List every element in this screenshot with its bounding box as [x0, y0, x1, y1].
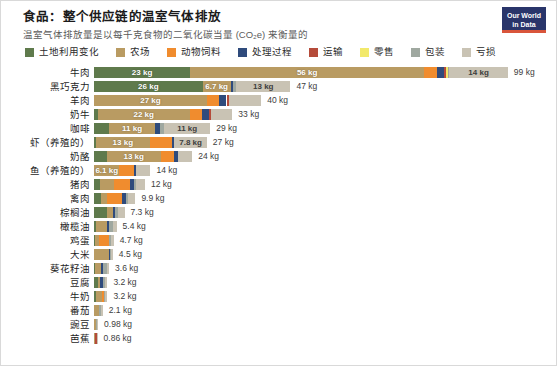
bar-row[interactable]: 豆腐3.2 kg [1, 275, 556, 289]
legend-swatch-icon [462, 48, 471, 57]
bar-segment[interactable] [97, 319, 98, 330]
bar-segment[interactable] [111, 235, 114, 246]
bar-row-label: 猪肉 [1, 179, 94, 190]
bar-row[interactable]: 奶酪13 kg24 kg [1, 149, 556, 163]
bar-segment[interactable] [107, 193, 122, 204]
bar-segment[interactable] [101, 193, 108, 204]
bar-segment[interactable] [437, 67, 445, 78]
bar-segment[interactable] [190, 109, 203, 120]
bar-segment[interactable] [94, 249, 109, 260]
bar-row[interactable]: 禽肉9.9 kg [1, 191, 556, 205]
bar-row[interactable]: 奶牛22 kg33 kg [1, 107, 556, 121]
bar-row[interactable]: 番茄2.1 kg [1, 303, 556, 317]
bar-row[interactable]: 鱼（养殖的）6.1 kg14 kg [1, 163, 556, 177]
bar-row[interactable]: 橄榄油5.4 kg [1, 219, 556, 233]
bar-total-value: 33 kg [238, 109, 259, 120]
bar-segment[interactable] [94, 207, 107, 218]
bar-segment[interactable] [98, 109, 190, 120]
bar-segment[interactable] [207, 95, 220, 106]
bar-segment[interactable] [161, 151, 174, 162]
bar-segment[interactable] [114, 179, 130, 190]
bar-row[interactable]: 芭蕉0.86 kg [1, 331, 556, 345]
bar-segment[interactable] [105, 277, 107, 288]
bar-total-value: 12 kg [151, 179, 172, 190]
bar-segment[interactable] [94, 193, 101, 204]
bar-segment[interactable] [236, 81, 290, 92]
bar-row-label: 鱼（养殖的） [1, 165, 94, 176]
bar-row-label: 芭蕉 [1, 333, 94, 344]
legend-item[interactable]: 零售 [360, 47, 394, 57]
bar-row-label: 牛奶 [1, 291, 94, 302]
bar-segment[interactable] [118, 207, 124, 218]
owid-logo-line2: in Data [502, 20, 546, 29]
bar-segment[interactable] [96, 137, 150, 148]
bar-track: 3.2 kg [94, 291, 556, 302]
bar-segment[interactable] [150, 137, 172, 148]
bar-total-value: 5.4 kg [123, 221, 146, 232]
bar-segment[interactable] [107, 151, 161, 162]
bar-row[interactable]: 葵花籽油3.6 kg [1, 261, 556, 275]
bar-total-value: 0.86 kg [104, 333, 132, 344]
bar-row[interactable]: 鸡蛋4.7 kg [1, 233, 556, 247]
legend-item[interactable]: 亏损 [462, 47, 496, 57]
bar-segment[interactable] [100, 179, 114, 190]
bar-segment[interactable] [94, 95, 207, 106]
bar-track: 0.98 kg [94, 319, 556, 330]
legend-item[interactable]: 农场 [116, 47, 150, 57]
bar-segment[interactable] [190, 67, 424, 78]
bar-row[interactable]: 虾（养殖的）13 kg7.8 kg27 kg [1, 135, 556, 149]
bar-segment[interactable] [97, 333, 98, 344]
bar-segment[interactable] [229, 95, 262, 106]
bar-row-label: 豌豆 [1, 319, 94, 330]
bar-segment[interactable] [164, 123, 210, 134]
bar-segment[interactable] [203, 81, 231, 92]
bar-total-value: 3.2 kg [113, 277, 136, 288]
bar-segment[interactable] [128, 193, 136, 204]
bar-total-value: 7.3 kg [131, 207, 154, 218]
bar-segment[interactable] [202, 109, 209, 120]
bar-row[interactable]: 牛肉23 kg56 kg14 kg99 kg [1, 65, 556, 79]
bar-segment[interactable] [94, 67, 190, 78]
bar-row[interactable]: 猪肉12 kg [1, 177, 556, 191]
bar-segment[interactable] [94, 151, 107, 162]
bar-segment[interactable] [449, 67, 508, 78]
bar-segment[interactable] [178, 151, 193, 162]
bar-segment[interactable] [94, 123, 109, 134]
bar-row[interactable]: 黑巧克力26 kg6.7 kg13 kg47 kg [1, 79, 556, 93]
bar-track: 9.9 kg [94, 193, 556, 204]
legend-item[interactable]: 动物饲料 [167, 47, 221, 57]
bar-segment[interactable] [174, 137, 207, 148]
bar-row[interactable]: 大米4.5 kg [1, 247, 556, 261]
bar-row[interactable]: 豌豆0.98 kg [1, 317, 556, 331]
bar-segment[interactable] [119, 165, 133, 176]
legend-swatch-icon [411, 48, 420, 57]
legend-item[interactable]: 包装 [411, 47, 445, 57]
bar-segment[interactable] [101, 305, 103, 316]
bar-segment[interactable] [109, 123, 155, 134]
bar-row[interactable]: 羊肉27 kg40 kg [1, 93, 556, 107]
legend-item[interactable]: 处理过程 [238, 47, 292, 57]
bar-segment[interactable] [424, 67, 437, 78]
bar-segment[interactable] [99, 235, 110, 246]
bar-segment[interactable] [105, 291, 107, 302]
legend-item[interactable]: 运输 [309, 47, 343, 57]
bar-row[interactable]: 棕榈油7.3 kg [1, 205, 556, 219]
bar-segment[interactable] [96, 221, 108, 232]
bar-segment[interactable] [94, 165, 119, 176]
bar-track: 5.4 kg [94, 221, 556, 232]
bar-segment[interactable] [111, 249, 113, 260]
bar-row[interactable]: 咖啡11 kg11 kg29 kg [1, 121, 556, 135]
bar-segment[interactable] [136, 179, 145, 190]
owid-logo[interactable]: Our World in Data [502, 7, 546, 33]
bar-row-label: 奶酪 [1, 151, 94, 162]
bar-segment[interactable] [211, 109, 232, 120]
bar-segment[interactable] [219, 95, 226, 106]
bar-segment[interactable] [107, 263, 110, 274]
bar-segment[interactable] [113, 221, 116, 232]
bar-row[interactable]: 牛奶3.2 kg [1, 289, 556, 303]
bar-segment[interactable] [136, 165, 151, 176]
bar-segment[interactable] [96, 291, 103, 302]
bar-segment[interactable] [94, 81, 203, 92]
legend-item[interactable]: 土地利用变化 [25, 47, 99, 57]
bar-track: 12 kg [94, 179, 556, 190]
